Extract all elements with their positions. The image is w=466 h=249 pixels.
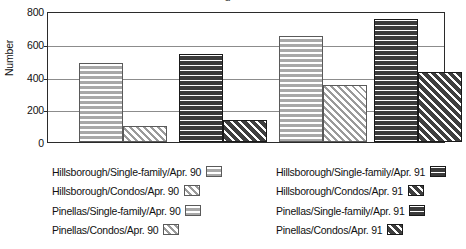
- legend-label: Hillsborough/Single-family/Apr. 91: [276, 166, 425, 178]
- legend-swatch-light-horizontal-icon: [185, 205, 201, 216]
- legend-label: Pinellas/Condos/Apr. 91: [276, 224, 382, 236]
- legend-swatch-dark-diagonal-icon: [387, 224, 403, 235]
- bar-hillsborough-single-family-apr-90: [79, 63, 123, 142]
- bar-hillsborough-condos-apr-91: [223, 120, 267, 142]
- legend-item: Pinellas/Condos/Apr. 90: [52, 220, 277, 239]
- legend-swatch-dark-horizontal-icon: [430, 166, 446, 177]
- legend-group-pinellas-90: Pinellas/Single-family/Apr. 90 Pinellas/…: [52, 201, 277, 239]
- legend-item: Hillsborough/Condos/Apr. 91: [276, 181, 466, 200]
- bar-pinellas-condos-apr-90: [323, 85, 367, 142]
- legend-group-hillsborough-91: Hillsborough/Single-family/Apr. 91 Hills…: [276, 162, 466, 200]
- y-tick-label: 800: [18, 6, 44, 18]
- legend-item: Hillsborough/Single-family/Apr. 91: [276, 162, 466, 181]
- legend-label: Pinellas/Condos/Apr. 90: [52, 224, 158, 236]
- legend-label: Hillsborough/Single-family/Apr. 90: [52, 166, 201, 178]
- legend-item: Pinellas/Single-family/Apr. 90: [52, 201, 277, 220]
- y-axis-label: Number: [3, 28, 15, 88]
- legend-group-hillsborough-90: Hillsborough/Single-family/Apr. 90 Hills…: [52, 162, 277, 200]
- legend-label: Hillsborough/Condos/Apr. 91: [276, 185, 403, 197]
- bar-chart: g Number 800 600 400 200 0: [0, 0, 455, 160]
- legend-swatch-light-horizontal-icon: [206, 166, 222, 177]
- legend-swatch-dark-horizontal-icon: [409, 205, 425, 216]
- bar-hillsborough-single-family-apr-91: [179, 54, 223, 142]
- legend-item: Hillsborough/Condos/Apr. 90: [52, 181, 277, 200]
- bar-pinellas-single-family-apr-90: [279, 36, 323, 142]
- chart-title-cropped: g: [0, 0, 455, 1]
- legend-label: Pinellas/Single-family/Apr. 90: [52, 205, 180, 217]
- legend-label: Hillsborough/Condos/Apr. 90: [52, 185, 179, 197]
- bar-hillsborough-condos-apr-90: [123, 126, 167, 142]
- y-tick-label: 200: [18, 104, 44, 116]
- legend-swatch-light-diagonal-icon: [163, 224, 179, 235]
- legend-item: Pinellas/Single-family/Apr. 91: [276, 201, 466, 220]
- chart-legend: Hillsborough/Single-family/Apr. 90 Hills…: [0, 160, 455, 249]
- y-tick-label: 0: [18, 137, 44, 149]
- plot-area: [47, 12, 445, 143]
- legend-item: Hillsborough/Single-family/Apr. 90: [52, 162, 277, 181]
- bar-pinellas-single-family-apr-91: [374, 19, 418, 142]
- legend-group-pinellas-91: Pinellas/Single-family/Apr. 91 Pinellas/…: [276, 201, 466, 239]
- bar-pinellas-condos-apr-91: [418, 72, 462, 142]
- legend-swatch-dark-diagonal-icon: [408, 185, 424, 196]
- y-tick-label: 600: [18, 39, 44, 51]
- legend-label: Pinellas/Single-family/Apr. 91: [276, 205, 404, 217]
- y-tick-label: 400: [18, 72, 44, 84]
- legend-item: Pinellas/Condos/Apr. 91: [276, 220, 466, 239]
- legend-swatch-light-diagonal-icon: [184, 185, 200, 196]
- y-axis-ticks: 800 600 400 200 0: [18, 0, 44, 160]
